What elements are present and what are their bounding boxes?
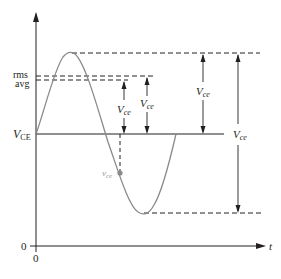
instantaneous-label: vce (102, 168, 112, 180)
marker-peak-to-dc: Vce (196, 54, 210, 134)
origin-y-label: 0 (21, 240, 27, 252)
x-axis: t (30, 240, 273, 252)
svg-text:Vce: Vce (233, 128, 247, 142)
instantaneous-point (117, 170, 122, 175)
y-axis (33, 12, 39, 252)
arrow-up-icon (201, 54, 206, 62)
marker-avg-to-dc: Vce (117, 81, 131, 134)
svg-text:Vce: Vce (196, 85, 210, 99)
marker-peak-to-peak: Vce (233, 54, 247, 213)
x-axis-arrow-icon (256, 243, 266, 249)
arrow-up-icon (236, 54, 241, 62)
arrow-down-icon (122, 126, 127, 134)
marker-rms-to-dc: Vce (140, 77, 154, 134)
avg-label: avg (15, 78, 29, 89)
x-axis-label: t (269, 240, 273, 252)
y-axis-arrow-icon (33, 12, 39, 22)
svg-text:Vce: Vce (117, 103, 131, 117)
arrow-down-icon (201, 126, 206, 134)
arrow-down-icon (236, 205, 241, 213)
svg-text:Vce: Vce (140, 97, 154, 111)
arrow-up-icon (122, 81, 127, 89)
vce-waveform-diagram: t 0 0 VCE rms avg vce Vce (0, 0, 281, 279)
arrow-up-icon (145, 77, 150, 85)
vce-sine-curve (36, 52, 176, 214)
dc-level-label: VCE (13, 127, 31, 142)
origin-x-label: 0 (33, 252, 39, 264)
arrow-down-icon (145, 126, 150, 134)
